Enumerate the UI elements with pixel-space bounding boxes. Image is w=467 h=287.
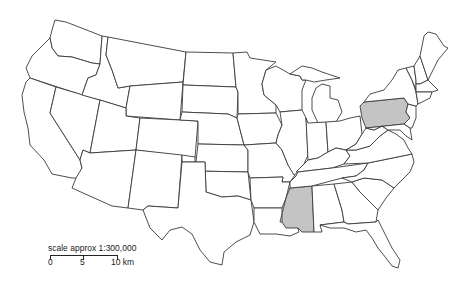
scale-bar-legend: scale approx 1:300,000 0 5 10 km <box>48 243 168 273</box>
state-montana[interactable] <box>106 37 186 88</box>
state-north-dakota[interactable] <box>183 52 236 87</box>
state-iowa[interactable] <box>237 113 282 145</box>
scale-label-5: 5 <box>80 257 85 267</box>
state-arkansas[interactable] <box>250 177 290 208</box>
state-wyoming[interactable] <box>126 82 183 120</box>
state-florida[interactable] <box>320 220 400 268</box>
state-connecticut[interactable] <box>416 92 432 104</box>
scale-label-10: 10 km <box>111 257 134 267</box>
scale-title: scale approx 1:300,000 <box>48 243 136 253</box>
state-new-mexico[interactable] <box>128 150 182 210</box>
state-michigan-lower[interactable] <box>312 84 342 123</box>
scale-label-0: 0 <box>48 257 53 267</box>
state-arizona[interactable] <box>72 150 136 208</box>
state-pennsylvania[interactable] <box>360 98 410 128</box>
